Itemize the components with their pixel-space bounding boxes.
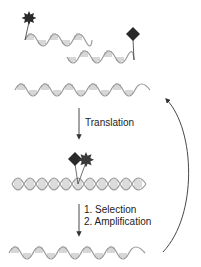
selection-label: 1. Selection	[84, 204, 136, 215]
template-strand	[15, 83, 150, 96]
library-strand-top	[22, 11, 93, 46]
amplification-label: 2. Amplification	[84, 216, 151, 227]
cycle-return-arrow	[163, 100, 189, 252]
diamond-molecule-icon	[126, 27, 140, 41]
library-strand-bottom	[67, 27, 140, 63]
translation-label: Translation	[85, 117, 134, 128]
star-molecule-icon	[22, 11, 37, 25]
amplified-strand	[9, 246, 145, 259]
bound-complex	[12, 152, 146, 190]
star-molecule-icon	[78, 152, 94, 168]
